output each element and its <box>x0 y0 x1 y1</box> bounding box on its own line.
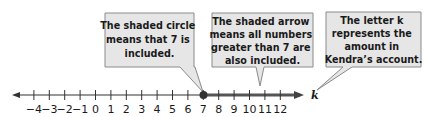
tick-label: 1 <box>107 103 114 116</box>
callout-line: greater than 7 are <box>211 42 311 53</box>
callout-line: Kendra’s account. <box>325 54 423 65</box>
tick-label: −4 <box>26 103 42 116</box>
tick-labels: −4−3−2−10123456789101112 <box>26 103 288 116</box>
callout-line: The shaded arrow <box>212 16 309 27</box>
tick-label: 8 <box>215 103 222 116</box>
tick-label: 9 <box>231 103 238 116</box>
callout-line: represents the <box>332 28 412 39</box>
right-arrowhead-icon <box>294 91 304 99</box>
tick-label: −2 <box>57 103 73 116</box>
callout-closed-circle: The shaded circle means that 7 is includ… <box>100 13 203 92</box>
callout-shaded-arrow: The shaded arrow means all numbers great… <box>209 13 315 86</box>
tick-label: 3 <box>138 103 145 116</box>
tick-label: 2 <box>123 103 130 116</box>
tick-label: 5 <box>169 103 176 116</box>
callout-line: means that 7 is <box>106 34 190 45</box>
callout-line: The shaded circle <box>100 20 195 31</box>
callout-line: amount in <box>344 41 399 52</box>
tick-label: 0 <box>92 103 99 116</box>
tick-label: 6 <box>184 103 191 116</box>
tick-label: −1 <box>72 103 88 116</box>
number-line-diagram: The shaded circle means that 7 is includ… <box>0 0 427 117</box>
tick-label: 10 <box>243 103 257 116</box>
tick-label: 11 <box>258 103 272 116</box>
callout-line: included. <box>125 48 175 59</box>
callout-line: The letter k <box>340 15 404 26</box>
number-line: −4−3−2−10123456789101112 k <box>12 89 319 117</box>
left-arrowhead-icon <box>12 92 20 98</box>
variable-label: k <box>311 89 319 102</box>
callout-variable-k: The letter k represents the amount in Ke… <box>317 12 422 90</box>
tick-label: 4 <box>154 103 161 116</box>
tick-label: 7 <box>200 103 207 116</box>
tick-label: −3 <box>41 103 57 116</box>
callout-line: also included. <box>225 55 300 66</box>
tick-label: 12 <box>273 103 287 116</box>
closed-circle-icon <box>200 91 208 99</box>
callout-line: means all numbers <box>209 29 312 40</box>
